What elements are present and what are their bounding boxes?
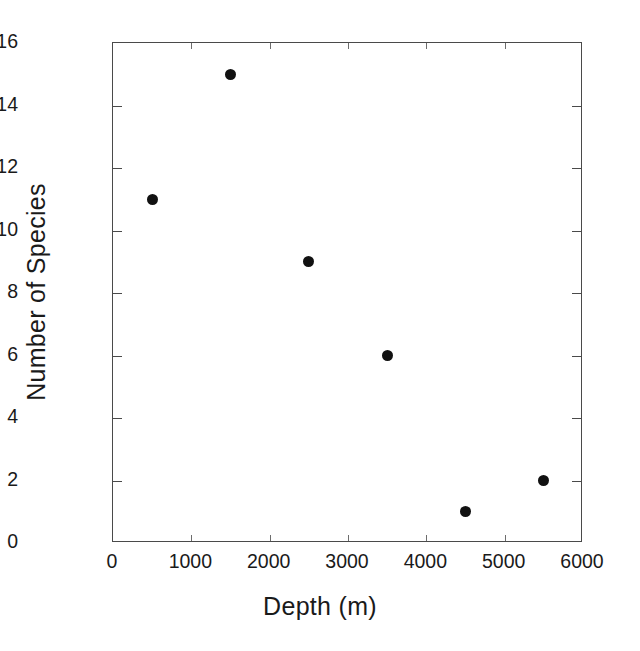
y-tick-right: [572, 106, 581, 107]
x-tick-top: [191, 43, 192, 49]
x-tick: [348, 535, 349, 541]
x-tick-label: 6000: [560, 552, 603, 572]
y-tick-right: [572, 293, 581, 294]
y-tick: [113, 231, 122, 232]
x-tick-top: [348, 43, 349, 49]
y-tick: [113, 106, 122, 107]
x-tick: [191, 535, 192, 541]
x-tick-label: 4000: [404, 552, 447, 572]
x-tick: [270, 535, 271, 541]
data-point: [225, 69, 236, 80]
x-tick-top: [426, 43, 427, 49]
x-tick-label: 1000: [169, 552, 212, 572]
x-tick-label: 2000: [247, 552, 290, 572]
y-tick-right: [572, 356, 581, 357]
y-tick: [113, 418, 122, 419]
plot-area: [112, 42, 582, 542]
x-tick-label: 5000: [482, 552, 525, 572]
data-point: [303, 256, 314, 267]
x-tick: [505, 535, 506, 541]
x-axis-title: Depth (m): [0, 592, 640, 621]
y-tick-right: [572, 418, 581, 419]
data-point: [382, 350, 393, 361]
y-tick: [113, 356, 122, 357]
x-tick-top: [270, 43, 271, 49]
y-axis-title: Number of Species: [16, 42, 56, 542]
y-tick-right: [572, 481, 581, 482]
x-tick: [426, 535, 427, 541]
data-point: [538, 475, 549, 486]
x-tick-label: 3000: [325, 552, 368, 572]
data-point: [460, 506, 471, 517]
y-tick: [113, 481, 122, 482]
y-tick: [113, 168, 122, 169]
y-tick-right: [572, 168, 581, 169]
data-point: [147, 194, 158, 205]
scatter-plot-figure: 0246810121416 0100020003000400050006000 …: [0, 0, 640, 651]
x-tick-label: 0: [107, 552, 118, 572]
y-tick-right: [572, 231, 581, 232]
y-tick: [113, 293, 122, 294]
x-tick-top: [505, 43, 506, 49]
